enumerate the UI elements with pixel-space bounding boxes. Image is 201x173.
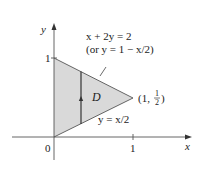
region-diagram: y x 0 1 1 D x + 2y = 2 (or y = 1 − x/2) … (0, 0, 201, 173)
x-axis-label: x (184, 140, 190, 152)
vertex-label-open: (1, (138, 92, 150, 105)
label-pointer-line (100, 67, 106, 76)
upper-curve-equation: x + 2y = 2 (86, 30, 131, 42)
lower-curve-equation: y = x/2 (98, 113, 129, 125)
x-axis-arrow-icon (185, 135, 192, 140)
y-tick-label: 1 (45, 52, 51, 64)
y-axis-label: y (40, 23, 46, 35)
x-tick-label: 1 (130, 142, 136, 154)
y-axis-arrow-icon (52, 23, 57, 30)
region-label: D (91, 90, 101, 104)
upper-curve-alt-equation: (or y = 1 − x/2) (86, 43, 154, 56)
vertex-label-denominator: 2 (155, 98, 159, 107)
vertex-label-numerator: 1 (155, 89, 159, 98)
origin-label: 0 (45, 142, 51, 154)
vertex-label-close: ) (161, 92, 165, 105)
vertex-label: (1, 1 2 ) (138, 89, 165, 107)
